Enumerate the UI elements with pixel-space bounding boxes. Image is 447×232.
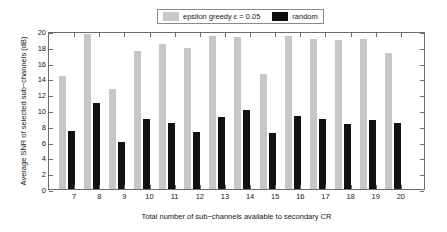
x-axis-tick xyxy=(250,185,251,189)
y-axis-tick-label: 8 xyxy=(42,124,46,132)
bar-group xyxy=(310,33,326,189)
x-axis-tick xyxy=(124,185,125,189)
y-axis-tick-right xyxy=(420,128,424,129)
y-axis-tick-right xyxy=(420,65,424,66)
bar-random xyxy=(344,124,351,189)
bar-random xyxy=(269,133,276,189)
bar-epsilon-greedy xyxy=(360,39,367,189)
x-axis-tick-top xyxy=(175,33,176,37)
y-axis-tick xyxy=(49,65,53,66)
bar-epsilon-greedy xyxy=(184,48,191,189)
x-axis-tick-label: 18 xyxy=(346,192,354,201)
y-axis-tick xyxy=(49,112,53,113)
y-axis-tick xyxy=(49,175,53,176)
bar-epsilon-greedy xyxy=(260,74,267,189)
legend-swatch-random xyxy=(272,12,288,21)
plot-area: 0246810121416182078910111213141516171819… xyxy=(49,33,424,189)
x-axis-tick-top xyxy=(150,33,151,37)
y-axis-tick xyxy=(49,144,53,145)
x-axis-tick xyxy=(376,185,377,189)
x-axis-tick-top xyxy=(225,33,226,37)
bar-random xyxy=(294,116,301,189)
y-axis-tick-label: 10 xyxy=(38,108,46,116)
bar-random xyxy=(394,123,401,189)
y-axis-tick xyxy=(49,49,53,50)
x-axis-tick-top xyxy=(275,33,276,37)
y-axis-tick xyxy=(49,96,53,97)
bar-group xyxy=(260,33,276,189)
x-axis-tick-top xyxy=(200,33,201,37)
bar-epsilon-greedy xyxy=(385,53,392,189)
bar-random xyxy=(243,110,250,189)
bar-epsilon-greedy xyxy=(159,44,166,189)
y-axis-tick-right xyxy=(420,191,424,192)
y-axis-tick-label: 12 xyxy=(38,92,46,100)
x-axis-tick-label: 19 xyxy=(372,192,380,201)
x-axis-tick xyxy=(225,185,226,189)
y-axis-tick-label: 14 xyxy=(38,76,46,84)
y-axis-tick-label: 6 xyxy=(42,140,46,148)
x-axis-tick-top xyxy=(74,33,75,37)
bar-epsilon-greedy xyxy=(109,89,116,189)
bar-group xyxy=(209,33,225,189)
bar-random xyxy=(369,120,376,189)
x-axis-tick-top xyxy=(325,33,326,37)
y-axis-tick xyxy=(49,33,53,34)
x-axis-tick xyxy=(351,185,352,189)
x-axis-tick xyxy=(175,185,176,189)
x-axis-tick-label: 11 xyxy=(171,192,179,201)
chart-legend: epsilon greedy ε = 0.05 random xyxy=(157,9,324,24)
y-axis-tick-label: 16 xyxy=(38,61,46,69)
x-axis-tick-label: 15 xyxy=(271,192,279,201)
bar-group xyxy=(184,33,200,189)
y-axis-title: Average SNR of selected sub−channels (dB… xyxy=(18,32,30,190)
x-axis-tick-top xyxy=(124,33,125,37)
bar-epsilon-greedy xyxy=(84,34,91,189)
bar-group xyxy=(285,33,301,189)
x-axis-tick xyxy=(150,185,151,189)
legend-label-random: random xyxy=(292,12,317,21)
x-axis-title: Total number of sub−channels available t… xyxy=(48,212,425,222)
bar-epsilon-greedy xyxy=(285,36,292,189)
bar-random xyxy=(143,119,150,189)
figure-bar-chart: epsilon greedy ε = 0.05 random 024681012… xyxy=(0,0,447,232)
x-axis-tick-label: 7 xyxy=(72,192,76,201)
x-axis-tick-label: 9 xyxy=(122,192,126,201)
y-axis-tick-right xyxy=(420,96,424,97)
legend-label-epsilon-greedy: epsilon greedy ε = 0.05 xyxy=(183,12,260,21)
y-axis-tick-label: 20 xyxy=(38,29,46,37)
y-axis-tick-label: 0 xyxy=(42,187,46,195)
x-axis-tick-top xyxy=(351,33,352,37)
x-axis-tick xyxy=(74,185,75,189)
bar-random xyxy=(93,103,100,189)
x-axis-tick xyxy=(200,185,201,189)
x-axis-tick-label: 13 xyxy=(221,192,229,201)
bar-epsilon-greedy xyxy=(234,37,241,189)
x-axis-tick xyxy=(401,185,402,189)
x-axis-tick-top xyxy=(250,33,251,37)
bar-random xyxy=(319,119,326,189)
x-axis-tick-label: 17 xyxy=(321,192,329,201)
y-axis-tick-right xyxy=(420,112,424,113)
x-axis-tick-label: 14 xyxy=(246,192,254,201)
bar-group xyxy=(109,33,125,189)
y-axis-tick-label: 18 xyxy=(38,45,46,53)
bar-group xyxy=(335,33,351,189)
bar-epsilon-greedy xyxy=(209,36,216,189)
x-axis-tick-top xyxy=(300,33,301,37)
bar-group xyxy=(385,33,401,189)
bar-group xyxy=(134,33,150,189)
y-axis-tick-label: 2 xyxy=(42,171,46,179)
legend-swatch-epsilon-greedy xyxy=(163,12,179,21)
y-axis-tick-right xyxy=(420,144,424,145)
bar-random xyxy=(118,142,125,189)
bar-epsilon-greedy xyxy=(310,39,317,189)
bar-epsilon-greedy xyxy=(134,51,141,189)
x-axis-tick-label: 16 xyxy=(296,192,304,201)
x-axis-tick-top xyxy=(401,33,402,37)
x-axis-tick-label: 8 xyxy=(97,192,101,201)
x-axis-tick-label: 10 xyxy=(145,192,153,201)
y-axis-tick xyxy=(49,159,53,160)
bar-group xyxy=(360,33,376,189)
x-axis-tick-top xyxy=(376,33,377,37)
